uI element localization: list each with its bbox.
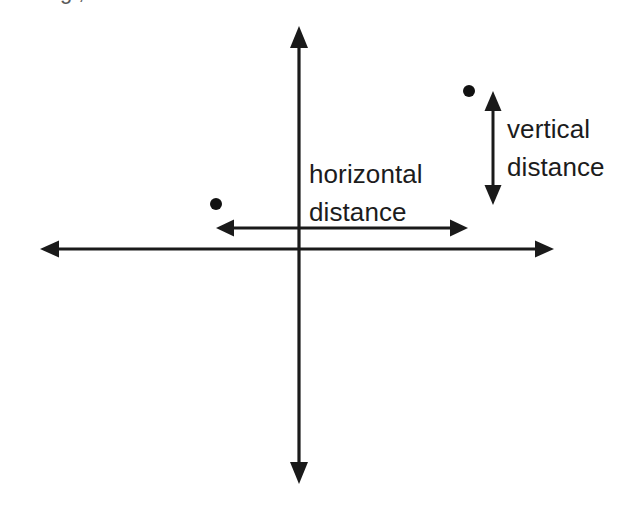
x-axis-right-arrowhead: [535, 241, 554, 258]
horizontal-distance-left-arrowhead: [216, 220, 234, 237]
horizontal-distance-right-arrowhead: [450, 220, 468, 237]
x-axis-left-arrowhead: [40, 241, 59, 258]
vertical-distance-arrow: [485, 91, 502, 205]
horizontal-distance-label: horizontal distance: [309, 155, 423, 231]
vertical-distance-label-line2: distance: [507, 148, 605, 186]
vertical-distance-label-line1: vertical: [507, 110, 605, 148]
horizontal-distance-label-line2: distance: [309, 193, 423, 231]
y-axis-bottom-arrowhead: [290, 462, 308, 484]
diagram-canvas: [0, 0, 636, 512]
y-axis-top-arrowhead: [290, 26, 308, 48]
coordinate-axes: [40, 26, 554, 484]
lower-left-point: [210, 198, 222, 210]
vertical-distance-label: vertical distance: [507, 110, 605, 186]
vertical-distance-top-arrowhead: [485, 91, 502, 111]
vertical-distance-bottom-arrowhead: [485, 185, 502, 205]
horizontal-distance-label-line1: horizontal: [309, 155, 423, 193]
upper-right-point: [463, 85, 475, 97]
distance-diagram-figure: g ,: [0, 0, 636, 512]
